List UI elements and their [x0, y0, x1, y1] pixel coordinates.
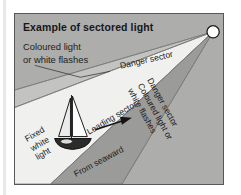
light-source-icon [207, 26, 219, 38]
figure-title: Example of sectored light [23, 21, 153, 33]
page-left-rule [3, 0, 6, 195]
sectored-light-illustration [15, 14, 223, 184]
caption-line-1: Coloured light [23, 41, 88, 54]
caption-line-2: or white flashes [23, 54, 88, 67]
sectored-light-figure: Example of sectored light Coloured light… [14, 13, 224, 185]
caption-coloured-light: Coloured light or white flashes [23, 41, 88, 66]
